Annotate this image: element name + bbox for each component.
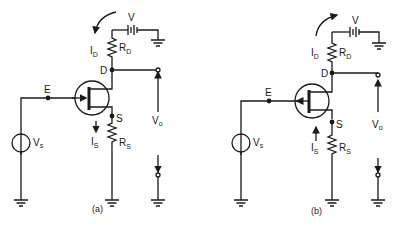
ground-icon (325, 200, 339, 206)
source-resistor-symbol (328, 122, 336, 200)
svg-text:S: S (116, 113, 123, 124)
svg-text:E: E (265, 87, 272, 98)
svg-text:ID: ID (90, 45, 98, 58)
labels-b: V ID RD D E S IS RS Vs Vo (b) (253, 15, 383, 216)
caption-b: (b) (311, 206, 322, 216)
ground-icon (372, 43, 386, 49)
svg-text:RS: RS (339, 142, 351, 155)
output-terminal-top (376, 73, 380, 77)
battery-icon (128, 25, 137, 35)
svg-text:D: D (321, 68, 328, 79)
ground-icon (14, 200, 28, 206)
drain-resistor-symbol (328, 32, 336, 73)
output-terminal-bottom (156, 173, 160, 177)
svg-text:V: V (352, 15, 359, 26)
svg-text:ID: ID (311, 47, 319, 60)
input-wire (241, 101, 303, 155)
svg-text:E: E (44, 84, 51, 95)
source-resistor-symbol (108, 116, 116, 200)
svg-text:RS: RS (119, 137, 131, 150)
svg-text:Vs: Vs (33, 137, 44, 149)
caption-a: (a) (92, 204, 103, 214)
output-terminal-bottom (376, 173, 380, 177)
ground-icon (234, 200, 248, 206)
svg-text:IS: IS (311, 142, 319, 155)
ground-icon (105, 200, 119, 206)
ground-icon (371, 200, 385, 206)
drain-resistor-symbol (108, 30, 116, 70)
circuit-b (232, 15, 386, 206)
svg-text:S: S (336, 119, 343, 130)
svg-text:D: D (100, 65, 107, 76)
svg-text:IS: IS (91, 136, 99, 149)
svg-text:RD: RD (339, 47, 351, 60)
circuit-a (12, 12, 165, 206)
ground-icon (151, 200, 165, 206)
output-terminal-top (156, 68, 160, 72)
circuit-diagram: V ID RD D E S IS RS Vs Vo (a) (0, 0, 394, 226)
drain-current-arrow (316, 15, 337, 36)
svg-text:Vo: Vo (152, 115, 163, 127)
svg-text:Vo: Vo (372, 119, 383, 131)
svg-text:Vs: Vs (253, 137, 264, 149)
svg-text:RD: RD (119, 42, 131, 55)
battery-icon (350, 27, 359, 37)
node-e (267, 99, 272, 104)
labels-a: V ID RD D E S IS RS Vs Vo (a) (33, 12, 163, 214)
svg-text:V: V (128, 12, 135, 23)
ground-icon (151, 40, 165, 46)
node-e (46, 96, 51, 101)
